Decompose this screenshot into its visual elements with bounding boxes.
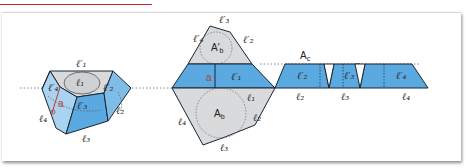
label-lateral-area: Ac xyxy=(300,50,311,62)
label-solid-top-base: ℓ₁ xyxy=(76,77,84,88)
label-solid-apothem: a xyxy=(58,98,64,109)
label-solid-bottom-edge-2: ℓ₂ xyxy=(116,105,124,116)
label-lateral-face-4-top: ℓ′₄ xyxy=(396,70,406,81)
label-net-bottom-edge-2: ℓ₂ xyxy=(253,112,261,123)
label-solid-bottom-edge-4: ℓ₄ xyxy=(39,113,47,124)
label-solid-face-3-top: ℓ′₃ xyxy=(77,100,87,111)
label-lateral-face-4-bottom: ℓ₄ xyxy=(402,91,410,102)
truncated-pyramid-diagram: ℓ′₁ ℓ₁ ℓ′₄ ℓ′₂ a ℓ′₃ ℓ₄ ℓ₂ ℓ₃ ℓ′₃ ℓ′₄ ℓ′… xyxy=(0,0,469,168)
label-lateral-face-3-bottom: ℓ₃ xyxy=(341,91,349,102)
label-net-top-edge-3: ℓ′₃ xyxy=(219,14,229,25)
label-solid-top-edge-4: ℓ′₄ xyxy=(48,82,58,93)
net-face-1 xyxy=(172,64,275,88)
label-lateral-face-2-top: ℓ′₂ xyxy=(297,70,307,81)
label-net-bottom-edge-1: ℓ₁ xyxy=(247,92,255,103)
label-net-top-edge-4: ℓ′₄ xyxy=(193,33,203,44)
label-net-bottom-edge-4: ℓ₄ xyxy=(178,116,186,127)
label-solid-top-edge-2: ℓ′₂ xyxy=(103,82,113,93)
label-solid-top-edge-1: ℓ′₁ xyxy=(76,58,86,69)
net-bases xyxy=(172,26,275,145)
net-lateral-face-4 xyxy=(360,64,428,88)
label-net-apothem: a xyxy=(206,72,212,83)
label-net-top-edge-2: ℓ′₂ xyxy=(243,34,253,45)
label-net-bottom-edge-3: ℓ₃ xyxy=(220,142,228,153)
label-lateral-face-2-bottom: ℓ₂ xyxy=(296,91,304,102)
label-net-face-1-top: ℓ′₁ xyxy=(231,71,241,82)
net-top-base xyxy=(188,26,252,64)
label-lateral-face-3-top: ℓ′₃ xyxy=(344,70,354,81)
label-solid-bottom-edge-3: ℓ₃ xyxy=(82,133,90,144)
